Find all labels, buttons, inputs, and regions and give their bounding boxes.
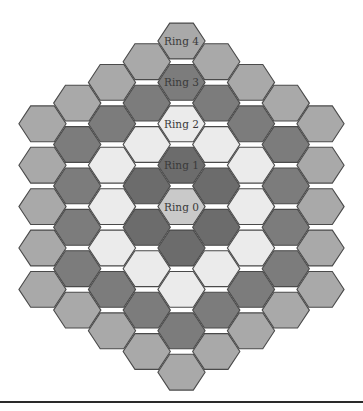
ring-4-label: Ring 4 bbox=[164, 35, 199, 47]
ring-0-label: Ring 0 bbox=[164, 201, 199, 213]
ring-1-label: Ring 1 bbox=[164, 159, 199, 171]
hex-ring-diagram: Ring 4 Ring 3 Ring 2 Ring 1 Ring 0 bbox=[0, 0, 363, 411]
ring-3-label: Ring 3 bbox=[164, 76, 199, 88]
bottom-divider-line bbox=[0, 401, 363, 403]
ring-2-label: Ring 2 bbox=[164, 118, 199, 130]
